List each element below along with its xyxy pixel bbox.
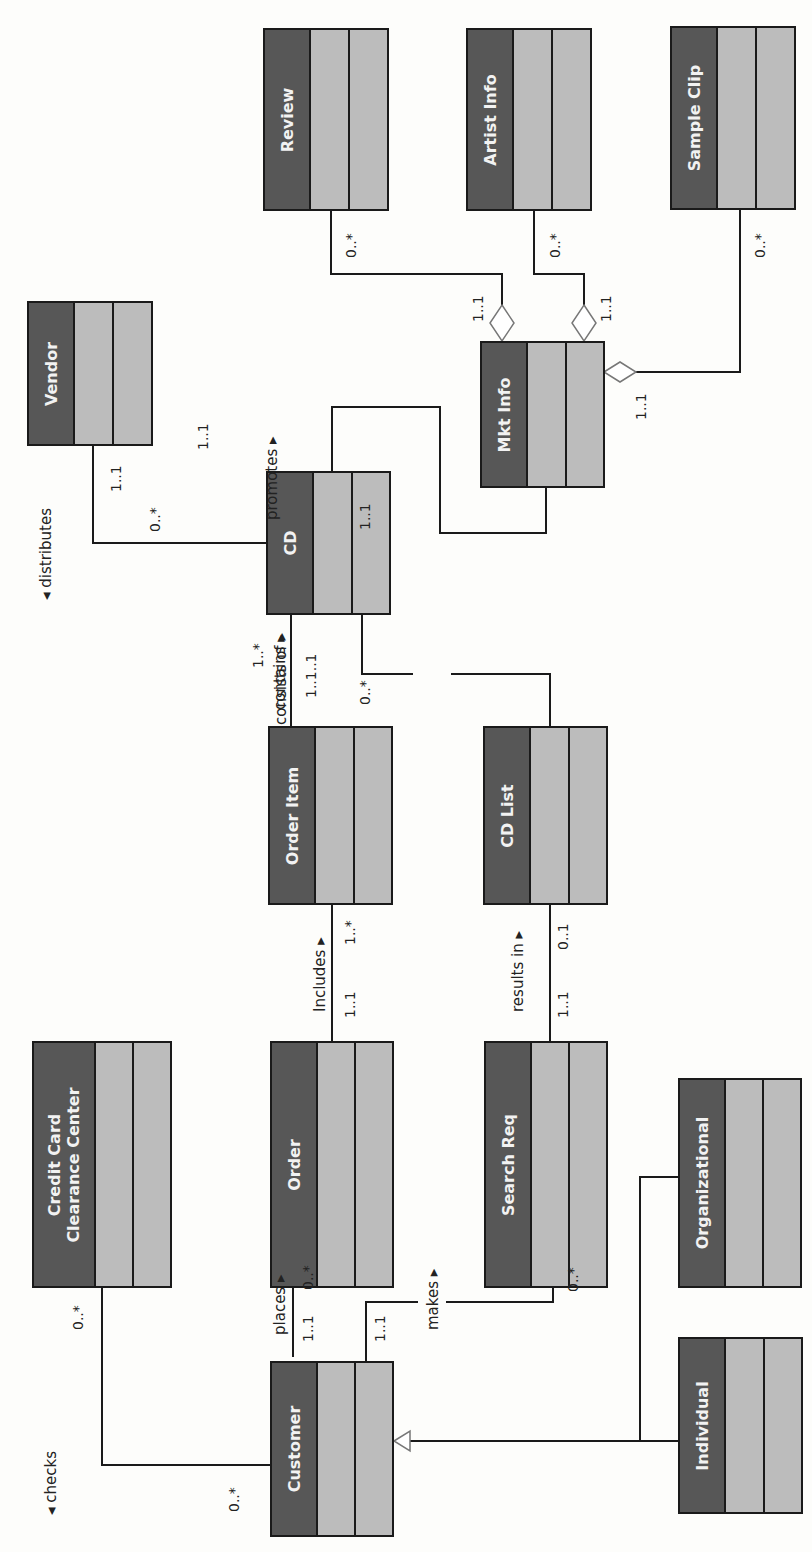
multiplicity-label: 1..1 xyxy=(342,991,358,1018)
operations-compartment xyxy=(553,30,590,209)
multiplicity-label: 0..* xyxy=(300,1265,316,1290)
multiplicity-label: 1..1 xyxy=(357,503,373,530)
class-search-req[interactable]: Search Req xyxy=(484,1041,608,1288)
attributes-compartment xyxy=(316,728,355,903)
multiplicity-label: 0..* xyxy=(565,1267,581,1292)
association-label-results-in: results in ▸ xyxy=(510,931,526,1012)
attributes-compartment xyxy=(514,30,553,209)
class-name: Order Item xyxy=(283,766,302,864)
multiplicity-label: 1..1 xyxy=(300,1315,316,1342)
association-label-distributes: ◂ distributes xyxy=(38,508,54,600)
attributes-compartment xyxy=(532,1043,570,1286)
attributes-compartment xyxy=(726,1080,764,1286)
aggregation-diamond xyxy=(572,305,596,341)
operations-compartment xyxy=(765,1339,802,1512)
class-name: Organizational xyxy=(693,1117,712,1250)
attributes-compartment xyxy=(311,30,350,209)
class-name: Customer xyxy=(285,1406,304,1493)
multiplicity-label: 1..1..1 xyxy=(303,653,319,698)
multiplicity-label: 0..* xyxy=(752,233,768,258)
class-name: Search Req xyxy=(499,1113,518,1215)
multiplicity-label: 1..* xyxy=(250,643,266,668)
association-label-checks: ◂ checks xyxy=(43,1451,59,1515)
class-artist-info[interactable]: Artist Info xyxy=(466,28,592,211)
association-label-includes: Includes ▸ xyxy=(312,937,328,1012)
operations-compartment xyxy=(356,1043,392,1286)
operations-compartment xyxy=(757,28,794,208)
attributes-compartment xyxy=(531,728,570,903)
multiplicity-label: 1..1 xyxy=(470,295,486,322)
multiplicity-label: 1..1 xyxy=(372,1315,388,1342)
association-label-promotes: promotes ▸ xyxy=(264,436,280,520)
class-vendor[interactable]: Vendor xyxy=(27,301,153,446)
class-name: Vendor xyxy=(42,341,61,405)
multiplicity-label: 1..* xyxy=(342,920,358,945)
uml-class-diagram: Review Artist Info Sample Clip Vendor Mk… xyxy=(0,0,812,1552)
class-mkt-info[interactable]: Mkt Info xyxy=(480,341,605,488)
class-credit-card-clearance-center[interactable]: Credit CardClearance Center xyxy=(32,1041,172,1288)
class-cd[interactable]: CD xyxy=(266,471,391,615)
attributes-compartment xyxy=(96,1043,134,1286)
association-label-places: places ▸ xyxy=(272,1275,288,1335)
class-organizational[interactable]: Organizational xyxy=(678,1078,802,1288)
aggregation-diamond xyxy=(604,362,636,382)
class-name: Review xyxy=(278,87,297,152)
multiplicity-label: 0..1 xyxy=(555,923,571,950)
operations-compartment xyxy=(350,30,387,209)
class-individual[interactable]: Individual xyxy=(678,1337,803,1514)
class-name: Artist Info xyxy=(481,74,500,165)
multiplicity-label: 1..1 xyxy=(555,991,571,1018)
class-review[interactable]: Review xyxy=(263,28,389,211)
class-name: CD List xyxy=(498,784,517,847)
operations-compartment xyxy=(356,1363,392,1535)
class-name: CD xyxy=(281,530,300,555)
class-name: Order xyxy=(285,1139,304,1191)
operations-compartment xyxy=(764,1080,800,1286)
aggregation-diamond xyxy=(490,305,514,341)
multiplicity-label: 0..* xyxy=(343,233,359,258)
multiplicity-label: 1..1 xyxy=(633,393,649,420)
association-label-consists-of: consists of ▸ xyxy=(273,633,289,725)
attributes-compartment xyxy=(314,473,353,613)
operations-compartment xyxy=(570,728,607,903)
attributes-compartment xyxy=(318,1043,356,1286)
attributes-compartment xyxy=(528,343,567,486)
class-name: Credit CardClearance Center xyxy=(45,1087,83,1242)
multiplicity-label: 0..* xyxy=(547,233,563,258)
class-name: Mkt Info xyxy=(495,377,514,452)
class-cd-list[interactable]: CD List xyxy=(483,726,608,905)
class-name: Individual xyxy=(693,1381,712,1470)
attributes-compartment xyxy=(718,28,757,208)
connector-lines xyxy=(0,0,812,1552)
multiplicity-label: 1..1 xyxy=(108,465,124,492)
operations-compartment xyxy=(570,1043,606,1286)
multiplicity-label: 1..1 xyxy=(598,295,614,322)
attributes-compartment xyxy=(726,1339,765,1512)
operations-compartment xyxy=(134,1043,170,1286)
multiplicity-label: 0..* xyxy=(147,507,163,532)
multiplicity-label: 0..* xyxy=(357,680,373,705)
generalization-arrowhead xyxy=(394,1431,410,1451)
attributes-compartment xyxy=(318,1363,356,1535)
multiplicity-label: 1..1 xyxy=(195,423,211,450)
class-sample-clip[interactable]: Sample Clip xyxy=(670,26,796,210)
attributes-compartment xyxy=(75,303,114,444)
class-order[interactable]: Order xyxy=(270,1041,394,1288)
operations-compartment xyxy=(567,343,604,486)
operations-compartment xyxy=(114,303,151,444)
operations-compartment xyxy=(353,473,390,613)
class-order-item[interactable]: Order Item xyxy=(268,726,393,905)
class-customer[interactable]: Customer xyxy=(270,1361,394,1537)
multiplicity-label: 0..* xyxy=(226,1487,242,1512)
multiplicity-label: 0..* xyxy=(70,1305,86,1330)
association-label-makes: makes ▸ xyxy=(425,1269,441,1330)
class-name: Sample Clip xyxy=(685,65,704,172)
operations-compartment xyxy=(355,728,392,903)
